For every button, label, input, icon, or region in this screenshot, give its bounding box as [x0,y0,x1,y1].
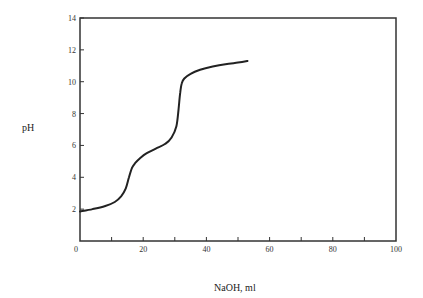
y-axis-title: pH [22,122,34,133]
y-tick-label: 2 [72,205,76,214]
x-tick-label: 40 [202,245,210,254]
x-tick-label: 80 [329,245,337,254]
titration-chart: 2468101214 020406080100 pH NaOH, ml [0,0,423,298]
x-tick-label: 60 [266,245,274,254]
plot-frame [80,18,396,241]
titration-curve-line [80,61,248,212]
x-tick-label: 100 [390,245,402,254]
y-tick-label: 14 [68,14,76,23]
y-tick-label: 8 [72,110,76,119]
y-tick-label: 6 [72,141,76,150]
y-tick-label: 10 [68,78,76,87]
x-tick-label: 0 [74,245,78,254]
x-axis-ticks: 020406080100 [74,237,402,254]
y-axis-ticks: 2468101214 [68,14,84,214]
x-axis-title: NaOH, ml [214,282,256,293]
y-tick-label: 4 [72,173,76,182]
y-tick-label: 12 [68,46,76,55]
x-tick-label: 20 [139,245,147,254]
